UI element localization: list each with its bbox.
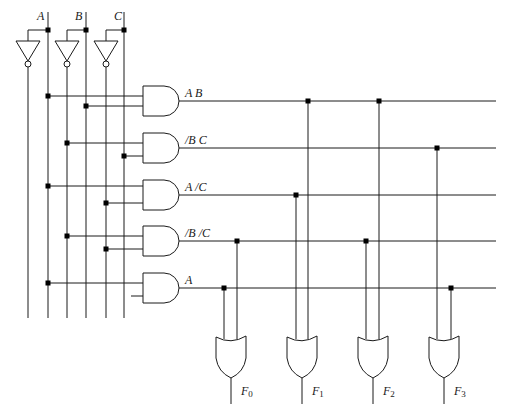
input-label-c: C (114, 9, 123, 23)
or-gate-icon (358, 336, 388, 378)
junction-dot (84, 28, 89, 33)
output-label-f0: F0 (240, 384, 253, 399)
term-label-nb-nc: /B /C (184, 226, 211, 240)
and-gate-icon (143, 133, 179, 163)
and-gate-icon (143, 180, 179, 210)
or-gate-icon (216, 336, 246, 378)
and-gate-icon (143, 273, 179, 303)
and-gate-icon (143, 226, 179, 256)
inverter-triangle-icon (16, 41, 40, 61)
output-label-f1: F1 (311, 384, 324, 399)
inverter-bubble-icon (64, 61, 70, 67)
and-gate-a-nc (143, 180, 179, 210)
term-label-ab: A B (184, 86, 203, 100)
and-input-wires (48, 96, 143, 296)
junction-dot (46, 28, 51, 33)
input-label-b: B (75, 9, 83, 23)
product-term-lines (179, 101, 496, 288)
or-input-wires (224, 102, 451, 339)
junction-dot (122, 28, 127, 33)
inverter-triangle-icon (55, 41, 79, 61)
and-gate-ab (143, 86, 179, 116)
and-gate-a (143, 273, 179, 303)
pla-logic-diagram: A B C (0, 0, 506, 416)
and-gate-nb-c (143, 133, 179, 163)
inverter-triangle-icon (94, 41, 118, 61)
input-lines (28, 12, 124, 318)
term-label-nb-c: /B C (184, 133, 208, 147)
term-label-a-nc: A /C (184, 180, 207, 194)
or-gate-icon (287, 336, 317, 378)
inverter-a (16, 28, 51, 68)
inverter-b (55, 28, 89, 68)
and-gate-icon (143, 86, 179, 116)
or-gate-icon (429, 336, 459, 378)
inverter-bubble-icon (103, 61, 109, 67)
term-label-a: A (184, 273, 193, 287)
input-label-a: A (36, 9, 45, 23)
and-gate-nb-nc (143, 226, 179, 256)
inverter-bubble-icon (25, 61, 31, 67)
output-label-f3: F3 (453, 384, 466, 399)
output-label-f2: F2 (382, 384, 395, 399)
inverter-c (94, 28, 127, 68)
